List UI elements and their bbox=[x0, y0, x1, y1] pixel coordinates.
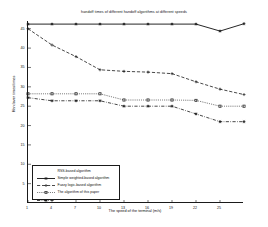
legend-label: Fuzzy logic-based algorithm bbox=[58, 184, 102, 188]
series-1 bbox=[27, 27, 246, 96]
legend-item-1[interactable]: Simple weighted-based algorithm bbox=[36, 175, 117, 182]
y-tick-label-40: 40 bbox=[21, 46, 25, 50]
y-tick-label-10: 10 bbox=[21, 162, 25, 166]
legend-label: RSS-based algorithm bbox=[58, 170, 91, 174]
legend-item-2[interactable]: Fuzzy logic-based algorithm bbox=[36, 182, 117, 189]
series-0 bbox=[27, 22, 246, 32]
y-tick-label-45: 45 bbox=[21, 27, 25, 31]
legend-item-0[interactable]: RSS-based algorithm bbox=[36, 168, 117, 175]
legend-label: The algorithm of this paper bbox=[58, 191, 100, 195]
series-2 bbox=[27, 93, 245, 108]
legend-line-sample-icon bbox=[36, 182, 56, 189]
y-tick-label-25: 25 bbox=[21, 104, 25, 108]
legend-line-sample-icon bbox=[36, 175, 56, 182]
y-tick-label-30: 30 bbox=[21, 85, 25, 89]
y-axis-title: Handover times/times bbox=[12, 54, 16, 134]
chart-legend: RSS-based algorithmSimple weighted-based… bbox=[32, 165, 120, 200]
y-tick-label-5: 5 bbox=[23, 182, 25, 186]
legend-line-sample-icon bbox=[36, 168, 56, 175]
y-tick-label-20: 20 bbox=[21, 124, 25, 128]
chart-title: handoff times of different handoff algor… bbox=[0, 10, 268, 14]
legend-line-sample-icon bbox=[36, 190, 56, 197]
legend-item-3[interactable]: The algorithm of this paper bbox=[36, 190, 117, 197]
x-axis-title: The speed of the terminal (m/s) bbox=[27, 209, 243, 213]
legend-label: Simple weighted-based algorithm bbox=[58, 177, 110, 181]
chart-figure: handoff times of different handoff algor… bbox=[0, 0, 268, 227]
y-tick-label-35: 35 bbox=[21, 65, 25, 69]
y-tick-label-15: 15 bbox=[21, 143, 25, 147]
